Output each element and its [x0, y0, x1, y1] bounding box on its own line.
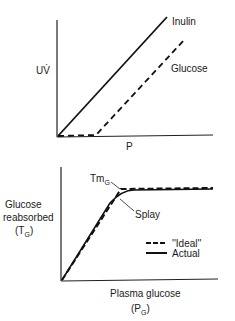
top-y-label: UV̇ [36, 64, 50, 76]
actual-line [62, 189, 213, 280]
bottom-chart: TmG Splay ''Ideal'' Actual Glucose reabs… [3, 167, 218, 316]
top-x-label: P [126, 141, 133, 152]
bottom-y-label-3: (TG) [15, 225, 33, 238]
bottom-x-axis [61, 279, 218, 281]
bottom-x-label-1: Plasma glucose [110, 288, 181, 299]
top-chart: Inulin Glucose UV̇ P [36, 16, 213, 152]
figure: Inulin Glucose UV̇ P TmG Splay ''Ideal''… [0, 0, 235, 321]
tm-label: TmG [90, 173, 110, 186]
legend-actual-label: Actual [172, 248, 200, 259]
bottom-x-label-2: (PG) [131, 303, 150, 316]
splay-label: Splay [135, 209, 160, 220]
ideal-line [62, 188, 213, 280]
glucose-line [58, 39, 185, 136]
splay-leader [120, 199, 134, 211]
inulin-label: Inulin [172, 16, 196, 27]
bottom-y-label-2: reabsorbed [3, 212, 54, 223]
glucose-label: Glucose [171, 63, 208, 74]
bottom-y-label-1: Glucose [5, 199, 42, 210]
tm-leader [111, 182, 120, 189]
